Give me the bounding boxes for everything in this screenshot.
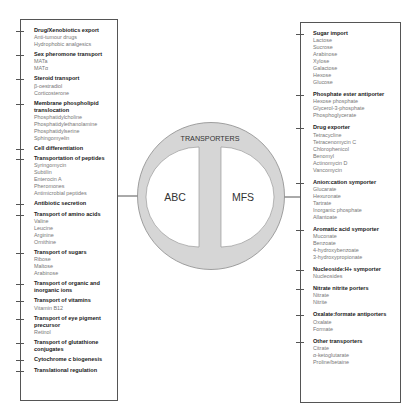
group-item: Leucine: [34, 225, 117, 232]
group-item: MATa: [34, 58, 117, 65]
group-item: Pheromones: [34, 183, 117, 190]
bracket-tick: [296, 342, 304, 343]
bracket-tick: [16, 371, 24, 372]
group-title: Other transporters: [313, 338, 400, 345]
group-title: Nucleoside:H+ symporter: [313, 266, 400, 273]
mfs-group: Nucleoside:H+ symporterNucleosides: [313, 266, 400, 280]
bracket-tick: [16, 343, 24, 344]
group-title: Transport of sugars: [34, 249, 117, 256]
group-title: Transport of vitamins: [34, 297, 117, 304]
bracket-tick: [296, 289, 304, 290]
group-item: Benzoate: [313, 240, 400, 247]
group-title: Drug/Xenobiotics export: [34, 27, 117, 34]
group-item: Nitrate: [313, 292, 400, 299]
group-title: Phosphate ester antiporter: [313, 91, 400, 98]
group-item: Hexose: [313, 72, 400, 79]
group-item: Phosphatidylserine: [34, 128, 117, 135]
abc-label: ABC: [164, 191, 186, 203]
bracket-tick: [16, 284, 24, 285]
group-item: Xylose: [313, 58, 400, 65]
mfs-group: Drug exporterTetracyclineTetracenomycin …: [313, 124, 400, 173]
abc-group: Transport of eye pigment precursorRetino…: [34, 315, 117, 336]
group-item: Formate: [313, 326, 400, 333]
group-title: Drug exporter: [313, 124, 400, 131]
abc-group: Membrane phospholipid translocationPhosp…: [34, 100, 117, 142]
abc-group: Sex pheromone transportMATaMATα: [34, 51, 117, 72]
bracket-tick: [296, 230, 304, 231]
group-title: Antibiotic secretion: [34, 200, 117, 207]
bracket-tick: [296, 95, 304, 96]
group-item: Nitrite: [313, 299, 400, 306]
abc-group: Transport of amino acidsValineLeucineArg…: [34, 211, 117, 246]
mfs-group: Other transportersCitrateα-ketoglutarate…: [313, 338, 400, 366]
bracket-tick: [16, 31, 24, 32]
abc-group: Drug/Xenobiotics exportAnti-tumour drugs…: [34, 27, 117, 48]
group-item: Inorganic phosphate: [313, 207, 400, 214]
group-item: Hydrophobic analgesics: [34, 41, 117, 48]
bracket-tick: [16, 104, 24, 105]
bracket-tick: [16, 319, 24, 320]
mfs-label: MFS: [232, 191, 254, 203]
group-item: Tartrate: [313, 200, 400, 207]
group-item: Actinomycin D: [313, 160, 400, 167]
group-item: Oxalate: [313, 319, 400, 326]
bracket-tick: [296, 34, 304, 35]
mfs-functions-panel: Sugar importLactoseSucroseArabinoseXylos…: [300, 22, 401, 403]
group-item: α-ketoglutarate: [313, 352, 400, 359]
transporters-label: TRANSPORTERS: [181, 134, 240, 143]
group-item: Tetracenomycin C: [313, 139, 400, 146]
group-item: Maltose: [34, 263, 117, 270]
mfs-group: Oxalate:formate antiportersOxalateFormat…: [313, 311, 400, 332]
group-item: Subtilin: [34, 169, 117, 176]
group-title: Transportation of peptides: [34, 155, 117, 162]
group-title: Steroid transport: [34, 75, 117, 82]
mfs-group: Anion:cation symporterGlucarateHexuronat…: [313, 179, 400, 221]
group-item: Citrate: [313, 345, 400, 352]
bracket-tick: [16, 149, 24, 150]
group-item: Corticosterone: [34, 90, 117, 97]
bracket-tick: [16, 55, 24, 56]
group-title: Transport of eye pigment precursor: [34, 315, 117, 329]
mfs-group: Phosphate ester antiporterHexose phospha…: [313, 91, 400, 119]
abc-group: Transport of vitaminsVitamin B12: [34, 297, 117, 311]
group-title: Nitrate nitrite porters: [313, 285, 400, 292]
bracket-tick: [16, 159, 24, 160]
group-item: Phosphatidylcholine: [34, 114, 117, 121]
group-item: 3-hydroxypropionate: [313, 254, 400, 261]
group-item: Benomyl: [313, 153, 400, 160]
mfs-group: Sugar importLactoseSucroseArabinoseXylos…: [313, 30, 400, 86]
bracket-tick: [16, 253, 24, 254]
bracket-tick: [296, 315, 304, 316]
group-title: Translational regulation: [34, 367, 117, 374]
bracket-tick: [16, 204, 24, 205]
group-item: Arabinose: [313, 51, 400, 58]
bracket-tick: [16, 215, 24, 216]
abc-group: Translational regulation: [34, 367, 117, 374]
bracket-tick: [16, 360, 24, 361]
group-item: Arabinose: [34, 270, 117, 277]
bracket-tick: [296, 270, 304, 271]
mfs-group: Aromatic acid symporterMuconateBenzoate4…: [313, 226, 400, 261]
group-item: Anti-tumour drugs: [34, 34, 117, 41]
group-item: Antimicrobial peptides: [34, 190, 117, 197]
group-item: Arginine: [34, 232, 117, 239]
group-title: Transport of organic and inorganic ions: [34, 280, 117, 294]
group-item: Allantoate: [313, 214, 400, 221]
group-item: Sphingomyelin: [34, 135, 117, 142]
group-item: Sucrose: [313, 44, 400, 51]
group-title: Anion:cation symporter: [313, 179, 400, 186]
group-item: Chlorophenicol: [313, 146, 400, 153]
group-item: Vitamin B12: [34, 305, 117, 312]
group-item: Glycerol-3-phosphate: [313, 105, 400, 112]
group-item: Glucarate: [313, 186, 400, 193]
group-item: Retinol: [34, 329, 117, 336]
group-title: Oxalate:formate antiporters: [313, 311, 400, 318]
group-item: Syringomycin: [34, 162, 117, 169]
group-item: Phosphatidylethanolamine: [34, 121, 117, 128]
bracket-tick: [16, 301, 24, 302]
mfs-group: Nitrate nitrite portersNitrateNitrite: [313, 285, 400, 306]
group-item: Galactose: [313, 65, 400, 72]
group-item: Proline/betaine: [313, 359, 400, 366]
group-item: Ribose: [34, 256, 117, 263]
group-item: 4-hydroxybenzoate: [313, 247, 400, 254]
